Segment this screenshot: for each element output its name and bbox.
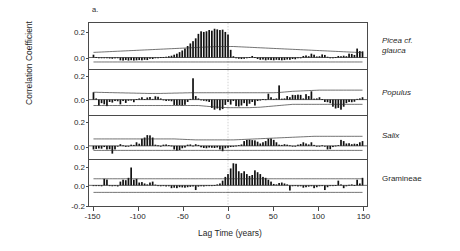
bar [122, 100, 124, 101]
bar [171, 185, 173, 188]
bar [106, 180, 108, 186]
bar [184, 49, 186, 58]
bar [332, 185, 334, 186]
bar [348, 185, 350, 186]
bar [157, 185, 159, 186]
bar [230, 100, 232, 105]
bar [101, 146, 103, 149]
bar [219, 30, 221, 57]
bar [203, 100, 205, 101]
bar [340, 184, 342, 185]
bar [122, 58, 124, 61]
y-tick-mark [86, 76, 89, 77]
y-tick-mark [86, 122, 89, 123]
bar [195, 38, 197, 57]
y-tick-mark [86, 100, 89, 101]
bar [141, 182, 143, 185]
bar [187, 185, 189, 187]
bar [117, 185, 119, 186]
bar [138, 144, 140, 146]
bar [254, 140, 256, 145]
x-tick-mark [273, 207, 274, 211]
bar [297, 185, 299, 186]
bar [179, 185, 181, 187]
bar [189, 99, 191, 100]
bar [294, 95, 296, 100]
bar [233, 56, 235, 57]
bar [259, 58, 261, 60]
bar [238, 100, 240, 107]
bar [316, 98, 318, 99]
bar [348, 100, 350, 102]
bar [227, 174, 229, 185]
bar [302, 185, 304, 187]
bar [128, 146, 130, 147]
bar [343, 141, 345, 146]
bar [337, 100, 339, 108]
y-tick-label: 0.0 [74, 142, 85, 151]
bar [176, 185, 178, 188]
bar [262, 177, 264, 185]
bar [103, 179, 105, 186]
bar [335, 146, 337, 147]
bar [332, 100, 334, 107]
bar [93, 92, 95, 99]
bar [224, 177, 226, 185]
y-tick-mark [86, 186, 89, 187]
y-tick-mark [86, 167, 89, 168]
bar [184, 185, 186, 187]
bar [146, 97, 148, 99]
bar [144, 99, 146, 100]
bar [117, 100, 119, 102]
bar [152, 182, 154, 186]
bar [254, 100, 256, 106]
bar [324, 100, 326, 102]
bar [292, 146, 294, 147]
bar [359, 183, 361, 185]
bar [300, 58, 302, 59]
bar [206, 146, 208, 148]
bar [262, 99, 264, 100]
bar [327, 185, 329, 187]
bar [155, 96, 157, 99]
y-tick-label: 0.2 [74, 118, 85, 127]
bar [109, 100, 111, 102]
bar [230, 146, 232, 147]
bar [149, 183, 151, 186]
bar [327, 100, 329, 103]
y-tick-mark [86, 32, 89, 33]
bar [203, 32, 205, 58]
bar [141, 58, 143, 61]
bar [289, 185, 291, 190]
bar [354, 55, 356, 58]
bar [165, 185, 167, 186]
bar [181, 50, 183, 57]
bar [103, 100, 105, 105]
bar [114, 185, 116, 186]
bar [265, 99, 267, 100]
bar [144, 183, 146, 185]
bar [117, 146, 119, 147]
figure-part-label: a. [92, 5, 99, 14]
bar [224, 146, 226, 148]
y-tick-label: 0.2 [74, 28, 85, 37]
panel-salix: 0.00.2 [88, 115, 368, 159]
bar [216, 29, 218, 57]
bar [219, 100, 221, 111]
bar [319, 97, 321, 99]
bar [95, 57, 97, 58]
bar [136, 58, 138, 61]
bar [146, 135, 148, 146]
bar [335, 57, 337, 58]
bar [351, 100, 353, 103]
x-tick-label: 50 [269, 212, 278, 221]
bar [165, 100, 167, 101]
bar [173, 146, 175, 150]
bar [308, 96, 310, 100]
bar [284, 98, 286, 99]
bar [354, 185, 356, 186]
bar [316, 185, 318, 187]
bar [302, 142, 304, 146]
bar [120, 58, 122, 61]
bar [324, 55, 326, 58]
